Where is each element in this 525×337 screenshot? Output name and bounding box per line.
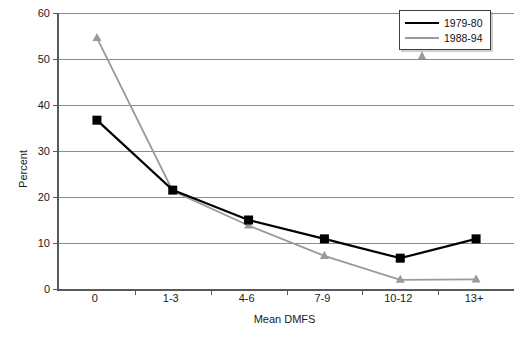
y-axis-tick bbox=[53, 13, 58, 14]
data-point-marker bbox=[168, 186, 177, 195]
legend-item-series1[interactable]: 1979-80 bbox=[405, 15, 483, 30]
x-axis-tick bbox=[287, 289, 288, 295]
legend-label-series2: 1988-94 bbox=[444, 32, 483, 44]
y-axis-tick bbox=[53, 59, 58, 60]
series-line-1979-80 bbox=[97, 120, 476, 258]
y-axis-tick-label: 0 bbox=[44, 284, 50, 295]
y-axis-title: Percent bbox=[17, 150, 29, 188]
y-axis-tick-label: 20 bbox=[38, 192, 50, 203]
data-point-marker bbox=[92, 116, 101, 125]
x-axis-title: Mean DMFS bbox=[57, 313, 512, 325]
data-point-marker bbox=[244, 216, 253, 225]
series-line-1988-94 bbox=[97, 38, 476, 280]
x-axis-tick-label: 13+ bbox=[465, 292, 484, 304]
x-axis-tick bbox=[362, 289, 363, 295]
x-axis-tick bbox=[211, 289, 212, 295]
chart-legend: 1979-80 1988-94 bbox=[399, 10, 491, 50]
x-axis-tick-label: 7-9 bbox=[314, 292, 330, 304]
y-axis-tick bbox=[53, 197, 58, 198]
x-axis-tick-label: 10-12 bbox=[384, 292, 412, 304]
legend-key-square-icon bbox=[405, 16, 439, 29]
data-point-marker bbox=[472, 234, 481, 243]
data-point-marker bbox=[472, 274, 481, 282]
y-axis-tick-label: 50 bbox=[38, 54, 50, 65]
data-point-marker bbox=[320, 234, 329, 243]
data-point-marker bbox=[396, 254, 405, 263]
y-axis-tick bbox=[53, 243, 58, 244]
x-axis-tick-label: 1-3 bbox=[163, 292, 179, 304]
y-axis-tick bbox=[53, 151, 58, 152]
x-axis-tick bbox=[135, 289, 136, 295]
y-axis-tick-label: 40 bbox=[38, 100, 50, 111]
x-axis-tick-label: 0 bbox=[92, 292, 98, 304]
y-axis-tick bbox=[53, 289, 58, 290]
series-layer bbox=[59, 13, 514, 289]
chart-container: Percent 0102030405060 01-34-67-910-1213+… bbox=[0, 0, 525, 337]
y-axis-tick bbox=[53, 105, 58, 106]
plot-area: 0102030405060 bbox=[57, 13, 514, 291]
x-axis-tick-label: 4-6 bbox=[239, 292, 255, 304]
x-axis-tick bbox=[438, 289, 439, 295]
legend-label-series1: 1979-80 bbox=[444, 17, 483, 29]
legend-item-series2[interactable]: 1988-94 bbox=[405, 30, 483, 45]
legend-key-triangle-icon bbox=[405, 31, 439, 44]
y-axis-tick-label: 30 bbox=[38, 146, 50, 157]
data-point-marker bbox=[92, 33, 101, 41]
y-axis-tick-label: 60 bbox=[38, 8, 50, 19]
y-axis-tick-label: 10 bbox=[38, 238, 50, 249]
